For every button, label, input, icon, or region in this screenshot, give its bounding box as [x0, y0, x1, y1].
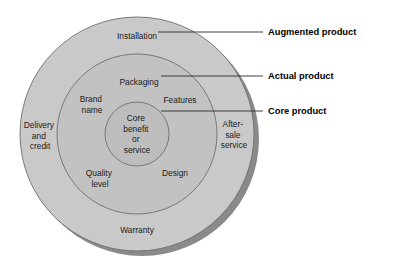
ring-item-packaging: Packaging: [119, 77, 158, 87]
product-levels-diagram: Installation Delivery and credit After- …: [0, 0, 399, 268]
callout-core-product: Core product: [268, 106, 326, 116]
ring-item-brand-name: Brand name: [80, 94, 105, 115]
callout-augmented-product: Augmented product: [268, 27, 356, 37]
ring-item-warranty: Warranty: [120, 225, 154, 235]
callout-actual-product: Actual product: [268, 71, 334, 81]
ring-item-design: Design: [162, 168, 188, 178]
concentric-circles-canvas: Installation Delivery and credit After- …: [0, 0, 399, 268]
ring-item-features: Features: [163, 95, 196, 105]
ring-item-installation: Installation: [117, 31, 157, 41]
